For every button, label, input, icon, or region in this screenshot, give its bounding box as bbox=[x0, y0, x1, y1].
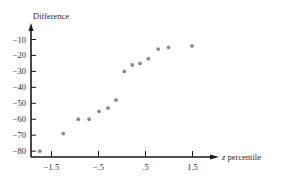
data-point bbox=[106, 106, 110, 110]
data-points bbox=[38, 44, 194, 153]
y-tick-label: −20 bbox=[13, 50, 26, 60]
scatter-chart: −10−20−30−40−50−60−70−80 −1.5−.5.51.5 Di… bbox=[0, 0, 283, 180]
y-tick-label: −70 bbox=[13, 130, 26, 140]
y-axis-arrow-icon bbox=[29, 23, 34, 31]
data-point bbox=[167, 46, 171, 50]
y-tick-label: −60 bbox=[13, 114, 26, 124]
data-point bbox=[156, 47, 160, 51]
data-point bbox=[76, 117, 80, 121]
y-axis-ticks: −10−20−30−40−50−60−70−80 bbox=[13, 35, 36, 157]
data-point bbox=[138, 62, 142, 66]
y-tick-label: −10 bbox=[13, 35, 26, 45]
y-axis-title: Difference bbox=[33, 11, 69, 21]
data-point bbox=[38, 149, 42, 153]
x-tick-label: .5 bbox=[142, 162, 148, 172]
x-tick-label: −.5 bbox=[93, 162, 104, 172]
x-axis-ticks: −1.5−.5.51.5 bbox=[44, 151, 198, 172]
data-point bbox=[97, 109, 101, 113]
data-point bbox=[122, 70, 126, 74]
x-axis-title: z percentile bbox=[221, 152, 261, 162]
data-point bbox=[190, 44, 194, 48]
data-point bbox=[87, 117, 91, 121]
y-tick-label: −30 bbox=[13, 66, 26, 76]
x-tick-label: −1.5 bbox=[44, 162, 59, 172]
x-axis-arrow-icon bbox=[210, 155, 219, 160]
data-point bbox=[146, 57, 150, 61]
data-point bbox=[61, 132, 65, 136]
data-point bbox=[130, 63, 134, 67]
data-point bbox=[114, 98, 118, 102]
y-tick-label: −80 bbox=[13, 146, 26, 156]
y-tick-label: −40 bbox=[13, 82, 26, 92]
y-tick-label: −50 bbox=[13, 98, 26, 108]
x-tick-label: 1.5 bbox=[187, 162, 198, 172]
